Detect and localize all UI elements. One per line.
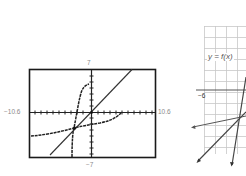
arrow-left-icon <box>191 125 196 129</box>
calculator-screen <box>30 70 156 158</box>
tick-label-neg6: −6 <box>198 93 205 100</box>
function-label: y = f(x) <box>207 53 234 61</box>
arrow-down-icon <box>230 162 234 167</box>
origin-point <box>90 111 93 114</box>
ymax-label: 7 <box>87 60 91 67</box>
ymin-label: −7 <box>86 162 93 169</box>
intersection-point <box>73 126 76 129</box>
xmax-label: 10.6 <box>158 109 171 116</box>
xmin-label: −10.6 <box>4 109 20 116</box>
figure-canvas <box>0 0 246 176</box>
